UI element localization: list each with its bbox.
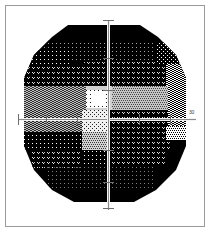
figure-frame (5, 5, 205, 227)
axis-label-30: 30 (189, 110, 194, 115)
plot-canvas (6, 6, 206, 228)
visual-field-plot (6, 6, 206, 228)
field-disc (6, 6, 206, 228)
